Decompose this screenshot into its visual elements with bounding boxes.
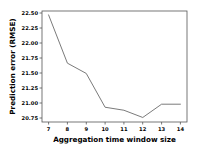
y-tick-label: 21.25 [22,85,39,91]
x-tick-label: 7 [47,126,51,132]
y-tick-label: 21.75 [22,55,39,61]
x-tick-label: 14 [177,126,185,132]
y-axis-title: Prediction error (RMSE) [8,18,17,114]
x-tick-label: 13 [158,126,166,132]
y-tick-label: 22.50 [22,10,39,16]
chart-figure: 22.50 22.25 22.00 21.75 21.50 21.25 21.0… [0,0,200,152]
x-axis-tick-labels: 7 8 9 10 11 12 13 14 [47,126,185,132]
x-tick-label: 10 [101,126,109,132]
y-axis-tick-labels: 22.50 22.25 22.00 21.75 21.50 21.25 21.0… [22,10,39,121]
line-chart: 22.50 22.25 22.00 21.75 21.50 21.25 21.0… [0,0,200,152]
y-tick-label: 21.50 [22,70,39,76]
x-tick-label: 12 [139,126,147,132]
x-tick-label: 11 [120,126,128,132]
y-tick-label: 20.75 [22,115,39,121]
y-tick-label: 21.00 [22,100,39,106]
x-tick-label: 8 [66,126,70,132]
x-axis-title: Aggregation time window size [53,135,176,144]
plot-area-background [42,11,187,122]
y-tick-label: 22.00 [22,40,39,46]
y-tick-label: 22.25 [22,25,39,31]
x-tick-label: 9 [84,126,88,132]
